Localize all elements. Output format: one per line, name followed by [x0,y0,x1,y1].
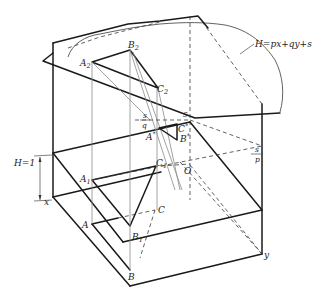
label-s: s [183,109,188,119]
label-a2: A2 [79,58,91,70]
hidden-cb [140,210,155,258]
axis-x-label: x [44,197,49,207]
dim-tick-bottom [34,200,52,201]
gradient-space-diagram: H=px+qy+s B2 A2 C2 s s q A* C* B* O s p … [0,0,322,300]
equation-leader [240,44,254,54]
plane-equation: H=px+qy+s [254,39,312,49]
label-o: O [184,166,192,176]
dim-arrow-down [39,195,42,200]
label-b: B [127,272,135,282]
frac-s-q-den: q [142,121,147,130]
s-over-p-line [190,120,262,146]
mid-plane-right-diag [190,122,262,210]
frac-s-q-num: s [143,111,147,120]
label-b1: B1 [131,232,143,244]
base-plane-front-left [53,197,130,286]
hidden-diagonal-top [198,16,262,104]
ray-a2 [92,62,150,120]
label-h1: H=1 [13,158,35,168]
frac-s-p-num: s [255,145,259,154]
base-plane-front-right [130,254,262,286]
axis-y-label: y [263,250,270,260]
mid-plane-front-right [123,210,262,242]
label-c: C [158,205,165,215]
frac-s-p-den: p [255,155,260,164]
dim-arrow-up [39,157,42,162]
label-b-star: B* [179,132,191,144]
base-plane-hidden-diag [190,165,262,254]
label-a-star: A* [145,130,157,142]
dim-tick-top [34,155,52,156]
label-c2: C2 [157,84,168,96]
o-diagonal [180,162,262,254]
label-a1: A1 [79,174,91,186]
plane-h-boundary [68,23,283,112]
label-a: A [81,220,89,230]
mid-plane-back-edge [53,122,190,153]
